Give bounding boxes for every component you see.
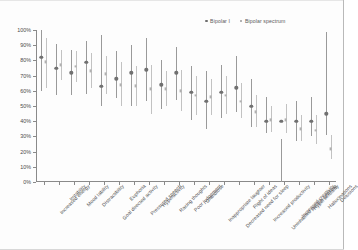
y-tick-label: 0%	[0, 179, 31, 185]
x-axis-labels: Increased energyIrritabilityMood labilit…	[36, 183, 336, 250]
data-point	[44, 61, 47, 64]
legend-marker-square-icon	[240, 20, 242, 22]
data-point	[209, 95, 212, 98]
legend-label-bipolar-spectrum: Bipolar spectrum	[245, 18, 286, 24]
data-point	[74, 65, 77, 68]
data-point	[295, 120, 298, 123]
data-point	[134, 85, 137, 88]
data-point	[205, 100, 208, 103]
y-tick	[33, 45, 36, 46]
data-point	[55, 66, 58, 69]
error-bar	[251, 79, 252, 128]
error-bar	[236, 56, 237, 112]
legend-item-bipolar-spectrum: Bipolar spectrum	[240, 18, 285, 24]
data-point	[89, 70, 92, 73]
data-point	[284, 118, 287, 121]
y-tick	[33, 76, 36, 77]
legend-item-bipolar-i: Bipolar I	[205, 18, 230, 24]
y-axis-line	[36, 30, 37, 182]
data-point	[119, 83, 122, 86]
legend-label-bipolar-i: Bipolar I	[210, 18, 230, 24]
data-point	[85, 60, 88, 63]
data-point	[269, 118, 272, 121]
data-point	[115, 77, 118, 80]
y-tick	[33, 30, 36, 31]
y-tick-label: 20%	[0, 149, 31, 155]
plot-area: 100%90%80%70%60%50%40%30%20%10%0%	[36, 30, 336, 182]
data-point	[299, 127, 302, 130]
error-bar	[56, 44, 57, 96]
data-point	[220, 91, 223, 94]
figure-border-top	[0, 0, 344, 1]
data-point	[175, 71, 178, 74]
y-tick-label: 50%	[0, 103, 31, 109]
data-point	[130, 71, 133, 74]
error-bar	[101, 35, 102, 106]
error-bar	[41, 30, 42, 91]
error-bar	[326, 32, 327, 135]
data-point	[149, 88, 152, 91]
y-tick	[33, 152, 36, 153]
error-bar	[131, 45, 132, 106]
data-point	[40, 56, 43, 59]
error-bar	[86, 41, 87, 94]
data-point	[190, 91, 193, 94]
figure-border-right	[343, 0, 344, 250]
error-bar	[281, 139, 282, 182]
data-point	[224, 94, 227, 97]
y-tick	[33, 60, 36, 61]
data-point	[164, 88, 167, 91]
legend-marker-circle-icon	[205, 20, 208, 23]
y-tick-label: 70%	[0, 73, 31, 79]
y-tick	[33, 167, 36, 168]
data-point	[59, 64, 62, 67]
data-point	[70, 71, 73, 74]
data-point	[250, 104, 253, 107]
data-point	[325, 112, 328, 115]
data-point	[280, 120, 283, 123]
y-tick-label: 60%	[0, 88, 31, 94]
data-point	[235, 86, 238, 89]
data-point	[100, 85, 103, 88]
y-tick-label: 100%	[0, 27, 31, 33]
data-point	[254, 111, 257, 114]
data-point	[194, 94, 197, 97]
data-point	[310, 120, 313, 123]
y-tick-label: 40%	[0, 118, 31, 124]
error-bar	[116, 51, 117, 98]
y-tick-label: 80%	[0, 57, 31, 63]
x-axis-line	[36, 181, 336, 182]
data-point	[160, 83, 163, 86]
data-point	[265, 120, 268, 123]
y-tick-label: 90%	[0, 42, 31, 48]
data-point	[239, 100, 242, 103]
data-point	[104, 73, 107, 76]
y-tick-label: 10%	[0, 164, 31, 170]
chart-legend: Bipolar I Bipolar spectrum	[205, 18, 285, 24]
data-point	[179, 89, 182, 92]
error-bar	[266, 97, 267, 133]
y-tick	[33, 91, 36, 92]
data-point	[314, 129, 317, 132]
y-tick	[33, 136, 36, 137]
y-tick-label: 30%	[0, 133, 31, 139]
y-tick	[33, 106, 36, 107]
data-point	[329, 147, 332, 150]
y-tick	[33, 121, 36, 122]
data-point	[145, 68, 148, 71]
error-bar	[311, 97, 312, 137]
